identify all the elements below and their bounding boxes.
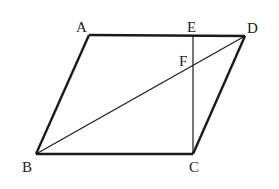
label-f: F	[179, 53, 187, 69]
label-a: A	[76, 19, 87, 35]
geometry-diagram: A E D F B C	[0, 0, 279, 189]
segment-dc	[193, 36, 245, 154]
diagonal-bd	[36, 36, 245, 154]
label-e: E	[187, 19, 196, 35]
segment-ba	[36, 35, 89, 154]
segment-ad	[89, 35, 245, 36]
label-b: B	[22, 159, 32, 175]
label-c: C	[189, 159, 199, 175]
label-d: D	[247, 20, 258, 36]
